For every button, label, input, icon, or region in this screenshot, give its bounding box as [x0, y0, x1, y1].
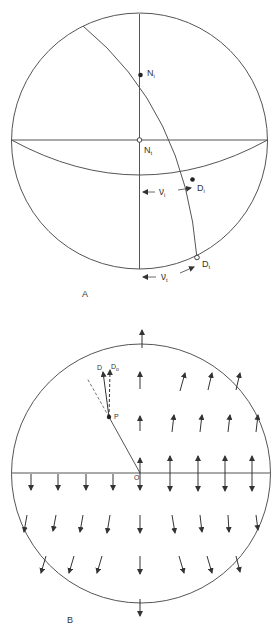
vector-d [103, 372, 109, 417]
point-n-t [137, 138, 142, 143]
point-p [107, 415, 111, 419]
label-origin: O [134, 474, 140, 481]
angle-nu-i: νi [143, 186, 191, 198]
stereographic-projection-figure: Ni Nt Di Dt νi νt A P D Do O [0, 0, 278, 629]
figure-b: P D Do O [12, 330, 271, 625]
point-d-i [190, 177, 195, 182]
label-p: P [114, 413, 119, 420]
point-d-t [195, 255, 200, 260]
label-nu-t: νt [161, 271, 168, 283]
figure-a: Ni Nt Di Dt νi νt A [12, 13, 268, 299]
label-d-i: Di [197, 183, 205, 194]
label-n-t: Nt [144, 145, 153, 156]
label-d-o: Do [111, 363, 119, 372]
label-nu-i: νi [159, 186, 165, 198]
angle-nu-t: νt [143, 267, 194, 283]
point-n-i [138, 73, 143, 78]
vector-d-o [109, 370, 110, 417]
label-d-t: Dt [202, 259, 211, 270]
label-n-i: Ni [147, 68, 155, 79]
radius-extension-dashed [87, 378, 109, 417]
radius-op [109, 417, 140, 473]
label-d: D [97, 364, 102, 371]
figure-b-label: B [67, 615, 73, 625]
figure-a-label: A [82, 289, 88, 299]
